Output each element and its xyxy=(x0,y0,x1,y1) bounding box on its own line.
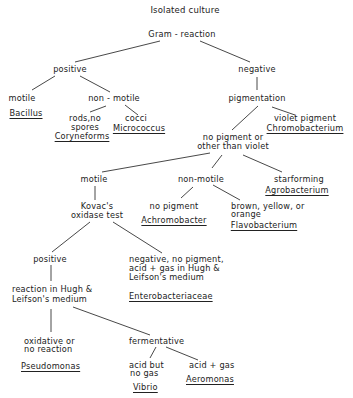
node-starforming: starforming xyxy=(274,175,324,184)
node-positive-non-motile: non - motile xyxy=(88,94,140,103)
node-hugh-leifson-1: reaction in Hugh & xyxy=(12,285,92,294)
node-violet-pigment: violet pigment xyxy=(274,114,336,123)
node-oxidative-2: no reaction xyxy=(24,345,72,354)
node-kovac-2: oxidase test xyxy=(71,211,123,220)
node-no-pigment-other-2: other than violet xyxy=(197,142,269,151)
node-cocci: cocci xyxy=(125,114,147,123)
organism-achromobacter: Achromobacter xyxy=(141,216,206,225)
node-pigmentation: pigmentation xyxy=(228,94,285,103)
organism-coryneforms: Coryneforms xyxy=(55,132,110,141)
organism-chromobacterium: Chromobacterium xyxy=(267,124,344,133)
node-gram-positive: positive xyxy=(53,65,87,74)
node-acid-gas: acid + gas xyxy=(189,361,235,370)
node-oxidase-positive: positive xyxy=(33,255,67,264)
organism-aeromonas: Aeromonas xyxy=(186,375,234,384)
node-positive-motile: motile xyxy=(9,94,36,103)
node-negative-non-motile: non-motile xyxy=(178,175,224,184)
node-no-pigment: no pigment xyxy=(150,202,199,211)
node-fermentative: fermentative xyxy=(129,337,184,346)
node-oxidase-negative-3: Leifson's medium xyxy=(129,273,204,282)
organism-pseudomonas: Pseudomonas xyxy=(21,362,80,371)
organism-enterobacteriaceae: Enterobacteriaceae xyxy=(129,292,213,301)
organism-agrobacterium: Agrobacterium xyxy=(265,186,328,195)
node-brown-yellow-orange-2: orange xyxy=(231,210,261,219)
organism-flavobacterium: Flavobacterium xyxy=(231,221,297,230)
node-hugh-leifson-2: Leifson's medium xyxy=(12,295,87,304)
organism-bacillus: Bacillus xyxy=(9,109,42,118)
organism-vibrio: Vibrio xyxy=(133,383,158,392)
node-gram-reaction: Gram - reaction xyxy=(148,30,215,39)
node-negative-motile: motile xyxy=(81,175,108,184)
title-isolated-culture: Isolated culture xyxy=(150,6,219,15)
node-gram-negative: negative xyxy=(238,65,275,74)
node-acid-no-gas-2: no gas xyxy=(130,369,158,378)
organism-micrococcus: Micrococcus xyxy=(113,124,165,133)
